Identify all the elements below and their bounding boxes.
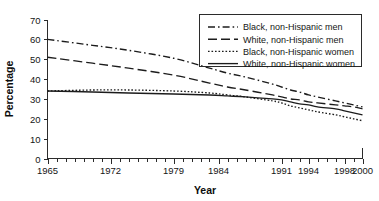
legend: Black, non-Hispanic menWhite, non-Hispan… xyxy=(200,15,362,69)
x-tick-label: 1979 xyxy=(163,165,184,176)
y-tick-label: 20 xyxy=(30,114,41,125)
legend-label-1: White, non-Hispanic men xyxy=(243,35,344,45)
y-tick-label: 30 xyxy=(30,94,41,105)
x-minor-tick-group xyxy=(49,159,364,164)
legend-label-3: White, non-Hispanic women xyxy=(243,59,355,69)
x-tick-label: 1991 xyxy=(271,165,292,176)
x-axis-title: Year xyxy=(194,184,216,196)
y-tick-label: 70 xyxy=(30,15,41,26)
x-tick-label: 1972 xyxy=(100,165,121,176)
y-tick-label: 60 xyxy=(30,34,41,45)
y-tick-label: 50 xyxy=(30,54,41,65)
y-tick-label: 0 xyxy=(35,154,40,165)
x-tick-label: 1965 xyxy=(37,165,58,176)
y-tick-label-group: 010203040506070 xyxy=(30,15,41,165)
y-tick-label: 10 xyxy=(30,134,41,145)
y-tick-label: 40 xyxy=(30,74,41,85)
legend-item-group: Black, non-Hispanic menWhite, non-Hispan… xyxy=(208,22,355,69)
x-tick-label: 1994 xyxy=(298,165,319,176)
legend-label-0: Black, non-Hispanic men xyxy=(243,22,343,32)
chart-figure: 010203040506070 196519721979198419911994… xyxy=(0,0,379,201)
x-tick-label-group: 19651972197919841991199419982000 xyxy=(37,165,373,176)
y-tick-group xyxy=(44,21,48,160)
legend-label-2: Black, non-Hispanic women xyxy=(243,47,354,57)
x-tick-label: 1984 xyxy=(208,165,229,176)
y-axis-title: Percentage xyxy=(3,61,15,118)
line-chart: 010203040506070 196519721979198419911994… xyxy=(0,0,379,201)
x-tick-label: 2000 xyxy=(352,165,373,176)
